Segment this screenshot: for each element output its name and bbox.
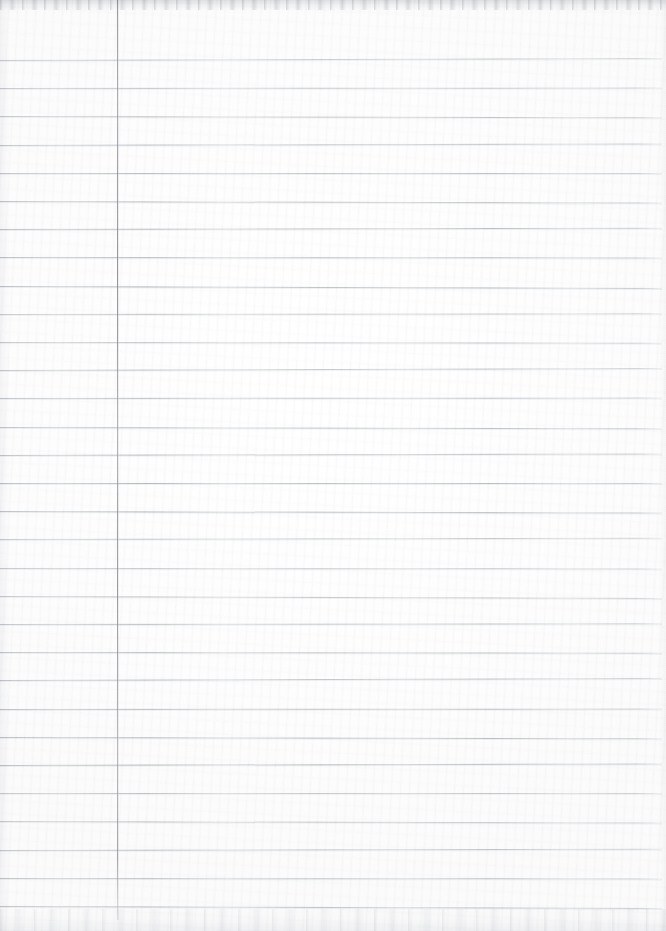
margin-rule-layer [0, 0, 666, 931]
vertical-margin-line [117, 0, 118, 920]
scanned-page [0, 0, 666, 931]
